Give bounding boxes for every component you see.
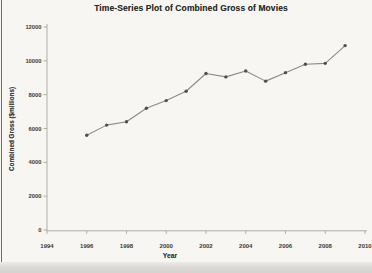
- y-tick-label: 6000: [29, 126, 42, 132]
- x-tick-label: 1996: [80, 243, 94, 249]
- data-point-marker: [264, 79, 267, 82]
- data-point-marker: [324, 62, 327, 65]
- data-point-marker: [224, 75, 227, 78]
- scanned-chart-page: Time-Series Plot of Combined Gross of Mo…: [0, 0, 372, 273]
- data-point-marker: [85, 134, 88, 137]
- data-point-marker: [125, 120, 128, 123]
- x-tick-label: 2000: [160, 243, 174, 249]
- y-tick-label: 8000: [29, 92, 42, 98]
- x-tick-label: 2002: [199, 243, 213, 249]
- y-tick-label: 10000: [25, 58, 41, 64]
- data-point-marker: [244, 69, 247, 72]
- data-point-marker: [343, 44, 346, 47]
- y-tick-label: 2000: [29, 193, 42, 199]
- data-point-marker: [204, 72, 207, 75]
- x-tick-label: 2006: [279, 243, 293, 249]
- x-tick-label: 2008: [319, 243, 333, 249]
- time-series-line-chart: 0200040006000800010000120001994199619982…: [0, 0, 372, 273]
- x-tick-label: 2010: [358, 243, 372, 249]
- x-tick-label: 1998: [120, 243, 134, 249]
- x-tick-label: 1994: [40, 243, 54, 249]
- data-point-marker: [304, 63, 307, 66]
- y-tick-label: 12000: [25, 24, 41, 30]
- data-point-marker: [284, 71, 287, 74]
- data-point-marker: [145, 107, 148, 110]
- y-tick-label: 4000: [29, 159, 42, 165]
- data-point-marker: [105, 123, 108, 126]
- y-tick-label: 0: [38, 227, 41, 233]
- data-point-marker: [184, 90, 187, 93]
- data-point-marker: [165, 99, 168, 102]
- x-tick-label: 2004: [239, 243, 253, 249]
